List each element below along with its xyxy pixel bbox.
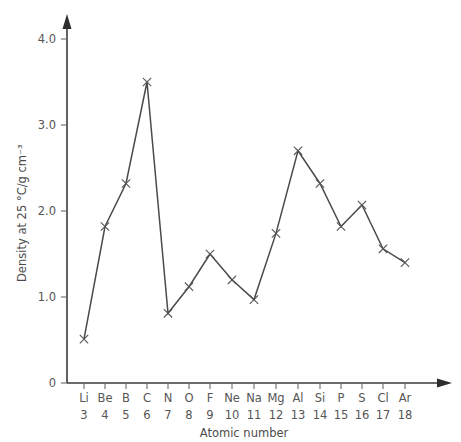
- x-number-8: 8: [185, 408, 192, 422]
- x-symbol-si: Si: [315, 391, 326, 405]
- y-tick-label-2: 2.0: [38, 204, 56, 218]
- y-axis-title: Density at 25 °C/g cm⁻³: [15, 144, 29, 282]
- x-symbol-o: O: [184, 391, 193, 405]
- x-number-10: 10: [225, 408, 240, 422]
- data-point-al: [294, 147, 302, 155]
- y-axis: [63, 14, 72, 383]
- x-symbol-b: B: [122, 391, 130, 405]
- x-symbol-c: C: [143, 391, 151, 405]
- x-symbol-p: P: [338, 391, 345, 405]
- x-symbol-na: Na: [246, 391, 262, 405]
- data-point-ar: [401, 258, 409, 266]
- x-number-5: 5: [122, 408, 129, 422]
- x-number-9: 9: [206, 408, 213, 422]
- x-axis-title: Atomic number: [200, 426, 289, 440]
- y-tick-label-3: 3.0: [38, 118, 56, 132]
- x-axis-arrowhead: [437, 379, 452, 388]
- x-number-15: 15: [334, 408, 349, 422]
- y-tick-label-4: 4.0: [38, 32, 56, 46]
- x-number-13: 13: [291, 408, 306, 422]
- y-tick-marks: [61, 39, 67, 383]
- x-tick-marks: [84, 383, 405, 389]
- x-axis: [67, 379, 452, 388]
- data-point-mg: [272, 229, 280, 237]
- x-symbol-be: Be: [98, 391, 113, 405]
- x-symbol-labels: Li Be B C N O F Ne Na Mg Al Si P S Cl Ar: [79, 391, 411, 405]
- data-point-ne: [228, 276, 236, 284]
- x-symbol-ne: Ne: [224, 391, 240, 405]
- x-symbol-li: Li: [79, 391, 89, 405]
- data-point-na: [250, 295, 258, 303]
- density-series-markers: [80, 78, 409, 344]
- x-number-17: 17: [376, 408, 391, 422]
- x-symbol-al: Al: [292, 391, 303, 405]
- x-symbol-s: S: [358, 391, 365, 405]
- x-symbol-f: F: [207, 391, 214, 405]
- x-number-12: 12: [269, 408, 284, 422]
- x-symbol-ar: Ar: [399, 391, 412, 405]
- y-axis-arrowhead: [63, 14, 72, 29]
- x-number-18: 18: [398, 408, 413, 422]
- density-vs-atomic-number-chart: 4.0 3.0 2.0 1.0 0 Density at 25 °C/g cm⁻…: [0, 0, 461, 442]
- data-point-s: [358, 201, 366, 209]
- data-point-cl: [379, 245, 387, 253]
- x-number-7: 7: [164, 408, 171, 422]
- x-number-14: 14: [313, 408, 328, 422]
- y-tick-label-1: 1.0: [38, 290, 56, 304]
- x-symbol-n: N: [164, 391, 173, 405]
- x-number-3: 3: [80, 408, 87, 422]
- data-point-o: [185, 283, 193, 291]
- data-point-p: [337, 222, 345, 230]
- x-number-4: 4: [101, 408, 108, 422]
- x-symbol-cl: Cl: [377, 391, 388, 405]
- y-tick-label-0: 0: [49, 376, 56, 390]
- x-number-6: 6: [143, 408, 150, 422]
- chart-canvas: 4.0 3.0 2.0 1.0 0 Density at 25 °C/g cm⁻…: [0, 0, 461, 442]
- x-symbol-mg: Mg: [267, 391, 284, 405]
- data-point-si: [316, 179, 324, 187]
- x-number-16: 16: [355, 408, 370, 422]
- density-series-line: [84, 82, 405, 339]
- x-number-11: 11: [247, 408, 262, 422]
- x-number-labels: 3 4 5 6 7 8 9 10 11 12 13 14 15 16 17 18: [80, 408, 412, 422]
- data-point-f: [206, 250, 214, 258]
